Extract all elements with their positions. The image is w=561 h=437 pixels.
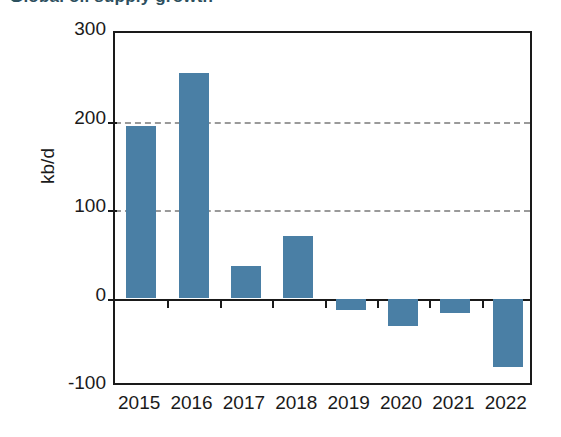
- x-tick-6: [429, 299, 431, 308]
- bar-2022: [493, 299, 523, 367]
- bar-2017: [231, 266, 261, 299]
- bar-2018: [283, 236, 313, 299]
- x-tick-label-2019: 2019: [323, 392, 375, 414]
- chart-figure: Global oil supply growth kb/d 3002001000…: [0, 0, 561, 437]
- y-axis-tick-labels: 3002001000-100: [38, 0, 106, 437]
- bar-2016: [179, 73, 209, 299]
- bar-2019: [336, 299, 366, 311]
- x-tick-label-2015: 2015: [113, 392, 165, 414]
- x-tick-2: [220, 299, 222, 308]
- x-tick-label-2017: 2017: [218, 392, 270, 414]
- x-tick-7: [482, 299, 484, 308]
- x-tick-label-2022: 2022: [480, 392, 532, 414]
- y-tick-200: [108, 122, 117, 124]
- x-tick-4: [325, 299, 327, 308]
- y-tick-label-200: 200: [74, 107, 106, 129]
- x-tick-label-2016: 2016: [165, 392, 217, 414]
- gridline-100: [115, 210, 530, 212]
- x-tick-label-2020: 2020: [375, 392, 427, 414]
- bar-2015: [126, 126, 156, 299]
- y-tick-label-100: 100: [74, 195, 106, 217]
- x-tick-3: [272, 299, 274, 308]
- y-tick-label-300: 300: [74, 18, 106, 40]
- plot-area: [113, 31, 532, 385]
- y-tick-label--100: -100: [68, 372, 106, 394]
- x-tick-label-2021: 2021: [427, 392, 479, 414]
- x-tick-label-2018: 2018: [270, 392, 322, 414]
- bar-2021: [440, 299, 470, 313]
- x-tick-1: [167, 299, 169, 308]
- y-tick-label-0: 0: [95, 284, 106, 306]
- y-tick-100: [108, 210, 117, 212]
- x-axis-tick-labels: 20152016201720182019202020212022: [113, 392, 532, 422]
- x-tick-5: [377, 299, 379, 308]
- gridline-200: [115, 122, 530, 124]
- bar-2020: [388, 299, 418, 326]
